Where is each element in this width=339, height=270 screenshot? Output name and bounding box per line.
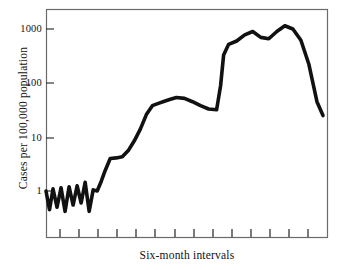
y-axis-label: Cases per 100,000 population [17,33,29,203]
chart-plot-area [0,0,339,270]
x-axis-label: Six-month intervals [46,249,328,261]
chart-figure: 1000 100 10 1 Cases per 100,000 populati… [0,0,339,270]
